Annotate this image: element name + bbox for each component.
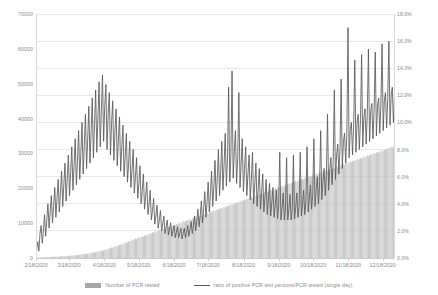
x-axis-tick-label: 2/18/2020 [24,262,47,269]
x-axis-tick-label: 4/18/2020 [93,262,116,269]
x-axis-tick-mark [348,258,349,261]
y-axis-right-tick-label: 0.0% [397,255,409,261]
x-axis-tick-mark [139,258,140,261]
y-axis-left-tick-label: 70000 [18,11,33,17]
y-axis-right-tick-label: 2.0% [397,228,409,234]
x-axis-tick-mark [104,258,105,261]
legend-label-pcr-tested: Number of PCR tested [105,282,159,288]
x-axis-tick-mark [69,258,70,261]
x-axis-tick-label: 3/18/2020 [58,262,81,269]
legend-item-pcr-tested: Number of PCR tested [85,282,159,288]
x-axis-tick-label: 7/18/2020 [197,262,220,269]
bar-swatch-icon [85,283,101,288]
y-axis-right-tick-label: 12.0% [397,92,412,98]
y-axis-left-line [36,14,37,258]
chart-container: 010000200003000040000500006000070000 0.0… [0,0,438,295]
x-axis-tick-mark [244,258,245,261]
x-axis-tick-mark [313,258,314,261]
x-axis-tick-label: 10/18/2020 [300,262,326,269]
x-axis-tick-mark [208,258,209,261]
x-axis-ticks: 2/18/20203/18/20204/18/20205/18/20206/18… [36,262,394,274]
x-axis-line [36,258,394,259]
y-axis-right-tick-label: 6.0% [397,174,409,180]
x-axis-tick-label: 9/18/2020 [267,262,290,269]
line-swatch-icon [194,285,210,286]
line-series-positivity-ratio [36,14,394,258]
y-axis-right-tick-label: 18.0% [397,11,412,17]
x-axis-tick-mark [279,258,280,261]
legend-label-positivity-ratio: ratio of positive PCR test persons/PCR t… [214,282,353,288]
x-axis-tick-label: 5/18/2020 [127,262,150,269]
legend-item-positivity-ratio: ratio of positive PCR test persons/PCR t… [194,282,353,288]
y-axis-left-tick-label: 40000 [18,116,33,122]
y-axis-right-tick-label: 4.0% [397,201,409,207]
chart-legend: Number of PCR tested ratio of positive P… [0,278,438,292]
y-axis-right-ticks: 0.0%2.0%4.0%6.0%8.0%10.0%12.0%14.0%16.0%… [397,14,437,258]
x-axis-tick-label: 11/18/2020 [336,262,362,269]
y-axis-left-ticks: 010000200003000040000500006000070000 [0,14,33,258]
plot-inner [36,14,394,258]
y-axis-left-tick-label: 30000 [18,150,33,156]
y-axis-left-tick-label: 0 [30,255,33,261]
y-axis-right-line [394,14,395,258]
x-axis-tick-label: 8/18/2020 [232,262,255,269]
x-axis-tick-mark [174,258,175,261]
y-axis-right-tick-label: 16.0% [397,38,412,44]
y-axis-left-tick-label: 60000 [18,46,33,52]
x-axis-tick-label: 12/18/2020 [370,262,396,269]
y-axis-right-tick-label: 10.0% [397,119,412,125]
y-axis-left-tick-label: 20000 [18,185,33,191]
x-axis-tick-mark [383,258,384,261]
y-axis-right-tick-label: 8.0% [397,147,409,153]
y-axis-left-tick-label: 50000 [18,81,33,87]
x-axis-tick-label: 6/18/2020 [162,262,185,269]
plot-area [36,14,394,258]
y-axis-left-tick-label: 10000 [18,220,33,226]
x-axis-tick-mark [36,258,37,261]
y-axis-right-tick-label: 14.0% [397,65,412,71]
